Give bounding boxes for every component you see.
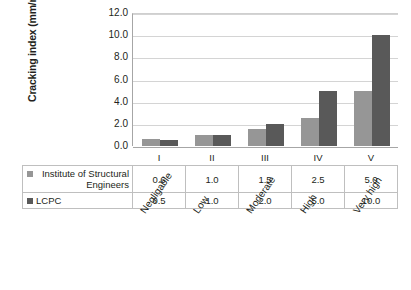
table-row-roman-headers: IIIIIIIVV <box>23 150 398 166</box>
table-header-cell: III <box>239 150 292 166</box>
y-axis-tick-labels: 12.010.08.06.04.02.00.0 <box>100 8 130 148</box>
y-axis-title: Cracking index (mm/m) <box>26 0 40 116</box>
category-label-slot: Negligable <box>132 205 185 290</box>
plot-area <box>132 13 398 146</box>
bar <box>319 91 337 146</box>
category-label-slot: Moderate <box>238 205 291 290</box>
bar <box>213 135 231 146</box>
legend-swatch-icon <box>27 171 33 177</box>
table-header-cell: V <box>345 150 398 166</box>
legend-label-cell: Institute of Structural Engineers <box>23 166 133 193</box>
category-label-slot: High <box>292 205 345 290</box>
y-tick-label: 4.0 <box>114 97 128 107</box>
bar <box>160 140 178 146</box>
bar-group <box>133 14 186 146</box>
category-label-slot: Very high <box>345 205 398 290</box>
table-value-cell: 1.0 <box>186 166 239 193</box>
table-row: Institute of Structural Engineers0.61.01… <box>23 166 398 193</box>
table-header-cell: II <box>186 150 239 166</box>
bar <box>354 91 372 146</box>
bars-layer <box>133 14 398 146</box>
y-tick-label: 8.0 <box>114 52 128 62</box>
legend-label-text: Institute of Structural Engineers <box>36 168 129 190</box>
bar-group <box>239 14 292 146</box>
table-header-cell: IV <box>292 150 345 166</box>
cracking-index-bar-chart: Cracking index (mm/m) 12.010.08.06.04.02… <box>0 0 411 290</box>
bar-group <box>292 14 345 146</box>
bar-group <box>186 14 239 146</box>
bar <box>248 129 266 146</box>
y-tick-label: 2.0 <box>114 119 128 129</box>
legend-swatch-icon <box>27 198 33 204</box>
bar-group <box>345 14 398 146</box>
y-tick-label: 12.0 <box>109 8 128 18</box>
bar <box>266 124 284 146</box>
legend-label-text: LCPC <box>36 195 129 206</box>
y-tick-label: 6.0 <box>114 75 128 85</box>
bar <box>195 135 213 146</box>
legend-label-cell: LCPC <box>23 193 133 209</box>
bar <box>372 35 390 146</box>
bar <box>142 139 160 146</box>
table-value-cell: 2.5 <box>292 166 345 193</box>
axis-baseline <box>133 147 398 148</box>
category-axis-labels: NegligableLowModerateHighVery high <box>132 205 398 290</box>
bar <box>301 118 319 146</box>
table-corner-cell <box>23 150 133 166</box>
y-tick-label: 10.0 <box>109 30 128 40</box>
category-label-slot: Low <box>185 205 238 290</box>
table-header-cell: I <box>133 150 186 166</box>
